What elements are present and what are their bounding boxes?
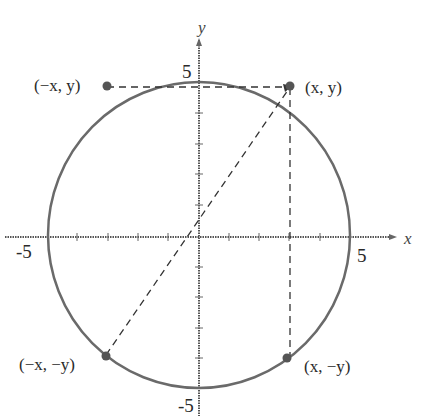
point-negx-negy bbox=[102, 352, 111, 361]
label-negx-y: (−x, y) bbox=[34, 76, 80, 95]
label-x-y: (x, y) bbox=[305, 78, 342, 97]
point-negx-y bbox=[103, 82, 112, 91]
x-min-label: -5 bbox=[16, 241, 32, 262]
point-x-negy bbox=[283, 354, 292, 363]
x-max-label: 5 bbox=[357, 245, 367, 266]
point-x-y bbox=[286, 82, 295, 91]
circle-diagram: (x, y) (−x, y) (−x, −y) (x, −y) x y 5 -5… bbox=[0, 0, 422, 416]
y-max-label: 5 bbox=[182, 61, 192, 82]
x-axis bbox=[5, 233, 397, 241]
x-axis-label: x bbox=[403, 229, 412, 248]
y-axis-label: y bbox=[196, 18, 206, 37]
label-x-negy: (x, −y) bbox=[304, 357, 350, 376]
label-negx-negy: (−x, −y) bbox=[19, 355, 75, 374]
y-min-label: -5 bbox=[178, 395, 194, 416]
y-axis bbox=[195, 38, 203, 416]
